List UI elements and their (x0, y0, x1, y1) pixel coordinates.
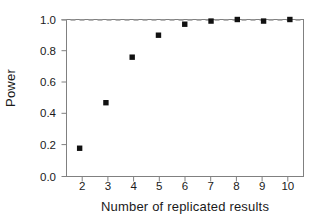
x-tick-label: 9 (249, 180, 275, 192)
x-tick-label: 6 (172, 180, 198, 192)
x-tick-label: 2 (69, 180, 95, 192)
y-axis-title: Power (2, 0, 20, 176)
x-axis-tick-labels: 2 3 4 5 6 7 8 9 10 (0, 0, 319, 223)
x-tick-label: 8 (223, 180, 249, 192)
chart-figure: 1.0 0.8 0.6 0.4 0.2 0.0 2 3 4 5 6 7 8 9 … (0, 0, 319, 223)
x-tick-label: 5 (146, 180, 172, 192)
x-tick-label: 7 (198, 180, 224, 192)
x-axis-title: Number of replicated results (60, 199, 310, 214)
x-tick-label: 3 (95, 180, 121, 192)
x-tick-label: 10 (275, 180, 301, 192)
x-tick-label: 4 (121, 180, 147, 192)
